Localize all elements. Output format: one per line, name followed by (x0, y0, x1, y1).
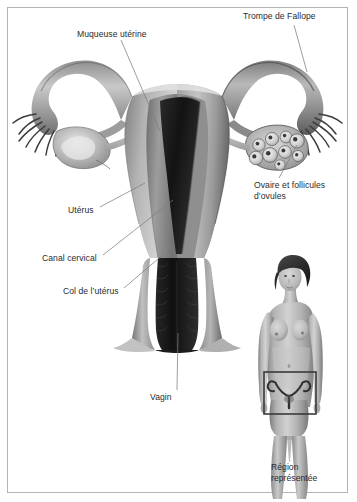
label-muqueuse-uterine: Muqueuse utérine (77, 29, 147, 40)
label-ovaire-et-follicules: Ovaire et follicules d’ovules (254, 180, 325, 201)
cervix-and-vagina (113, 258, 241, 353)
uterus-body (125, 84, 229, 258)
breast-left (270, 319, 288, 341)
label-canal-cervical: Canal cervical (42, 253, 97, 264)
anatomy-illustration (0, 0, 357, 502)
label-vagin: Vagin (150, 392, 172, 403)
label-col-de-luterus: Col de l’utérus (63, 286, 119, 297)
label-trompe-de-fallope: Trompe de Fallope (243, 11, 316, 22)
label-region-representee: Région représentée (271, 462, 317, 483)
breast-right (292, 320, 309, 341)
leader-trompe (294, 25, 307, 72)
label-uterus: Utérus (68, 205, 94, 216)
ovary-right (245, 125, 308, 170)
anatomy-figure: Muqueuse utérine Trompe de Fallope Ovair… (0, 0, 357, 502)
